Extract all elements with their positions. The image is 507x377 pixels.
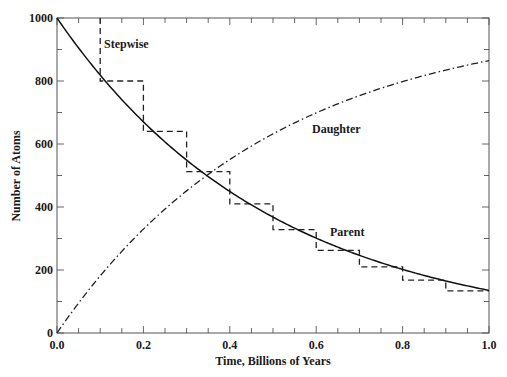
y-tick-label: 0 (47, 326, 53, 340)
y-tick-label: 800 (35, 74, 53, 88)
x-tick-label: 0.0 (50, 338, 65, 352)
x-tick-label: 0.6 (309, 338, 324, 352)
y-tick-label: 1000 (29, 11, 53, 25)
x-tick-label: 0.4 (222, 338, 237, 352)
axis-ticks (57, 18, 489, 333)
decay-chart: 0.00.20.40.60.81.002004006008001000 Step… (0, 0, 507, 377)
plot-frame (57, 18, 489, 333)
y-tick-label: 400 (35, 200, 53, 214)
x-tick-label: 0.2 (136, 338, 151, 352)
y-tick-label: 600 (35, 137, 53, 151)
x-tick-label: 0.8 (395, 338, 410, 352)
x-axis-title: Time, Billions of Years (215, 354, 331, 368)
parent-series (57, 18, 489, 290)
annotation-daughter: Daughter (312, 122, 361, 136)
y-tick-label: 200 (35, 263, 53, 277)
annotation-stepwise: Stepwise (104, 37, 149, 51)
annotation-parent: Parent (330, 225, 364, 239)
y-axis-title: Number of Atoms (9, 130, 23, 221)
axis-tick-labels: 0.00.20.40.60.81.002004006008001000 (29, 11, 497, 352)
stepwise-series (100, 18, 489, 291)
x-tick-label: 1.0 (482, 338, 497, 352)
daughter-series (57, 61, 489, 333)
